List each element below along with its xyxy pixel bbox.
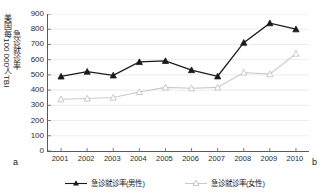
y-axis-tick-labels: 0100200300400500600700800900 (18, 0, 44, 195)
y-tick-label: 400 (20, 86, 44, 94)
legend-label-female: 急诊就诊率(女性) (211, 179, 265, 188)
y-tick-label: 500 (20, 71, 44, 79)
panel-label-left: a (13, 157, 18, 167)
data-point-marker (267, 20, 273, 26)
x-tick-label: 2002 (78, 155, 95, 163)
y-tick-label: 800 (20, 25, 44, 33)
x-tick-label: 2004 (130, 155, 147, 163)
x-axis-tick-labels: 2001200220032004200520062007200820092010 (47, 155, 309, 169)
panel-label-right: b (312, 157, 317, 167)
chart-legend: 急诊就诊率(男性) 急诊就诊率(女性) (47, 176, 309, 190)
y-tick-label: 900 (20, 10, 44, 18)
y-tick-label: 0 (20, 147, 44, 155)
plot-svg (48, 14, 309, 151)
x-tick-label: 2007 (208, 155, 225, 163)
x-tick-label: 2003 (104, 155, 121, 163)
y-tick-label: 100 (20, 132, 44, 140)
legend-marker-male-icon (65, 179, 87, 188)
plot-area (47, 14, 309, 152)
legend-label-male: 急诊就诊率(男性) (91, 179, 145, 188)
legend-marker-female-icon (185, 179, 207, 188)
x-tick-label: 2009 (261, 155, 278, 163)
x-tick-label: 2001 (52, 155, 69, 163)
x-tick-label: 2006 (182, 155, 199, 163)
x-tick-label: 2010 (287, 155, 304, 163)
x-tick-label: 2008 (234, 155, 251, 163)
series-line (61, 54, 296, 100)
chart-figure: 美国每100 000人TBI 急诊就诊率 0100200300400500600… (0, 0, 322, 195)
series-line (61, 23, 296, 76)
y-axis-label-line1: 美国每100 000人TBI (2, 14, 11, 87)
y-tick-label: 700 (20, 40, 44, 48)
data-point-marker (293, 50, 299, 56)
legend-item-male[interactable]: 急诊就诊率(男性) (65, 179, 145, 188)
y-tick-label: 600 (20, 56, 44, 64)
y-tick-label: 300 (20, 101, 44, 109)
x-tick-label: 2005 (156, 155, 173, 163)
y-tick-label: 200 (20, 117, 44, 125)
legend-item-female[interactable]: 急诊就诊率(女性) (185, 179, 265, 188)
